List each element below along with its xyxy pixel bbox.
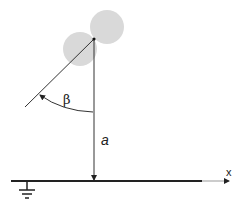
height-label: a: [101, 133, 109, 147]
pivot-point: [92, 37, 95, 40]
slant-line: [25, 39, 94, 107]
sphere-lower: [63, 32, 97, 66]
axis-label: x: [226, 167, 232, 178]
angle-label: β: [63, 93, 71, 106]
ground-icon: [19, 181, 35, 198]
diagram-canvas: [0, 0, 245, 211]
